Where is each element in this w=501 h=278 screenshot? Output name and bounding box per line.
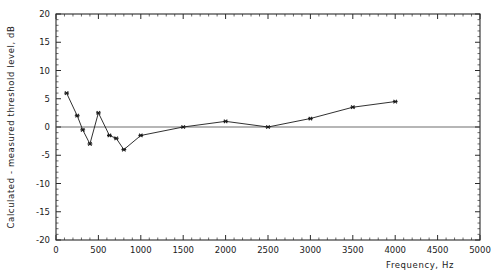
chart-svg: 0500100015002000250030003500400045005000… (0, 0, 501, 278)
x-tick-label: 2000 (215, 245, 237, 255)
x-tick-label: 3000 (300, 245, 322, 255)
y-tick-label: -10 (36, 179, 50, 189)
x-tick-label: 0 (53, 245, 58, 255)
x-tick-label: 4500 (427, 245, 449, 255)
y-tick-label: 20 (39, 9, 50, 19)
y-tick-label: 5 (45, 94, 50, 104)
x-tick-label: 500 (90, 245, 106, 255)
y-tick-label: -15 (36, 207, 50, 217)
y-tick-label: -20 (36, 235, 50, 245)
x-tick-label: 4000 (384, 245, 406, 255)
y-tick-label: 15 (39, 37, 50, 47)
x-tick-label: 5000 (469, 245, 491, 255)
x-tick-label: 2500 (257, 245, 279, 255)
chart-figure: 0500100015002000250030003500400045005000… (0, 0, 501, 278)
y-tick-label: 10 (39, 66, 50, 76)
x-tick-label: 1500 (172, 245, 194, 255)
figure-background (0, 0, 501, 278)
x-axis-title: Frequency, Hz (386, 260, 454, 270)
x-tick-label: 1000 (130, 245, 152, 255)
y-tick-label: -5 (42, 150, 50, 160)
x-tick-label: 3500 (342, 245, 364, 255)
y-axis-title: Calculated - measured threshold level, d… (6, 26, 16, 229)
y-tick-label: 0 (45, 122, 50, 132)
